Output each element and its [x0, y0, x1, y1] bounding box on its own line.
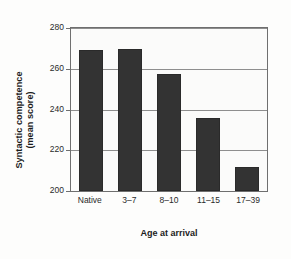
bar[interactable]	[118, 49, 142, 191]
y-axis-tick	[66, 69, 70, 70]
plot-area	[70, 27, 268, 192]
y-axis-tick-label: 220	[36, 144, 64, 154]
y-axis-tick-label: 260	[36, 63, 64, 73]
bar-series	[71, 28, 267, 191]
x-axis-tick-label: Native	[70, 195, 110, 205]
x-axis-tick-label: 17–39	[228, 195, 268, 205]
x-axis-tick-labels: Native3–78–1011–1517–39	[70, 195, 268, 205]
bar-chart-figure: Syntactic competence (mean score) 200220…	[0, 0, 291, 259]
x-axis-tick-label: 11–15	[189, 195, 229, 205]
bar-slot	[149, 28, 188, 191]
y-axis-tick	[66, 150, 70, 151]
y-axis-tick-label: 240	[36, 104, 64, 114]
y-axis-tick-label: 200	[36, 185, 64, 195]
bar[interactable]	[79, 50, 103, 191]
bar[interactable]	[196, 118, 220, 191]
bar-slot	[228, 28, 267, 191]
bar[interactable]	[157, 74, 181, 191]
bar[interactable]	[235, 167, 259, 191]
x-axis-tick-label: 3–7	[110, 195, 150, 205]
y-axis-title-line1: Syntactic competence	[14, 71, 25, 168]
y-axis-tick	[66, 110, 70, 111]
y-axis-tick	[66, 191, 70, 192]
y-axis-tick-label: 280	[36, 22, 64, 32]
bar-slot	[71, 28, 110, 191]
x-axis-tick-label: 8–10	[149, 195, 189, 205]
y-axis-tick-labels: 200220240260280	[34, 27, 64, 192]
bar-slot	[110, 28, 149, 191]
bar-slot	[189, 28, 228, 191]
y-axis-tick	[66, 28, 70, 29]
x-axis-title: Age at arrival	[70, 228, 268, 238]
